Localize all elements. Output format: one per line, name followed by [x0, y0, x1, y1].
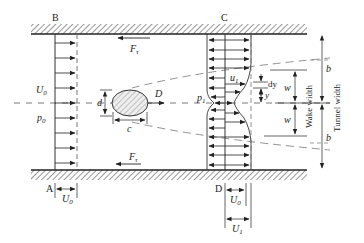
top-wall: [31, 24, 307, 34]
label-bottom-shear: Fτ: [128, 151, 138, 164]
label-a: A: [46, 183, 54, 194]
label-d: D: [215, 183, 222, 194]
label-wake-width: Wake width: [304, 84, 314, 128]
downstream-section: [207, 34, 251, 170]
label-b-bottom: b: [326, 132, 331, 143]
label-w-top: w: [284, 82, 291, 93]
label-tunnel-width: Tunnel width: [332, 84, 342, 132]
elliptical-body: [112, 90, 148, 116]
label-b-top: b: [326, 63, 331, 74]
label-u0-upstream: U0: [36, 84, 47, 97]
label-drag: D: [154, 88, 163, 99]
label-dy: dy: [268, 79, 278, 89]
wake-drag-diagram: B A C D Fτ Fτ D U0 p0 p1 u1 d c dy y w w…: [0, 0, 364, 243]
label-y: y: [264, 90, 269, 100]
label-u0-scale-d: U0: [230, 194, 241, 207]
label-u0-scale-a: U0: [62, 193, 73, 206]
label-u1-wake: u1: [230, 72, 239, 85]
label-body-chord: c: [127, 123, 132, 134]
label-top-shear: Fτ: [129, 43, 139, 56]
label-w-bottom: w: [284, 114, 291, 125]
upstream-section: [55, 34, 77, 170]
bottom-wall: [31, 170, 307, 180]
label-c: C: [221, 12, 228, 23]
label-b: B: [52, 12, 59, 23]
label-body-height: d: [97, 97, 103, 108]
label-p0: p0: [36, 112, 46, 125]
label-u1-scale-d: U1: [232, 223, 243, 236]
